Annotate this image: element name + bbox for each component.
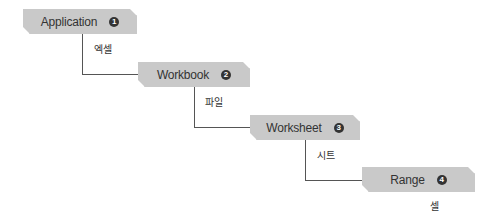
node-label: Range bbox=[390, 173, 424, 187]
connector-application-workbook-vertical bbox=[82, 34, 83, 75]
number-badge-icon: 4 bbox=[437, 175, 447, 185]
connector-workbook-worksheet-horizontal bbox=[194, 127, 250, 128]
connector-worksheet-range-horizontal bbox=[305, 180, 362, 181]
number-badge-icon: 2 bbox=[221, 70, 231, 80]
node-label: Application bbox=[41, 15, 98, 29]
number-badge-icon: 1 bbox=[109, 17, 119, 27]
node-label: Worksheet bbox=[266, 121, 321, 135]
connector-workbook-worksheet-vertical bbox=[194, 87, 195, 128]
node-label: Workbook bbox=[157, 68, 209, 82]
node-sublabel-worksheet: 시트 bbox=[317, 147, 335, 162]
node-application: Application 1 bbox=[23, 9, 137, 34]
node-sublabel-range: 셀 bbox=[430, 198, 439, 213]
node-worksheet: Worksheet 3 bbox=[250, 115, 360, 140]
node-sublabel-application: 엑셀 bbox=[94, 41, 112, 56]
node-sublabel-workbook: 파일 bbox=[205, 94, 223, 109]
connector-application-workbook-horizontal bbox=[82, 74, 138, 75]
node-range: Range 4 bbox=[362, 167, 475, 192]
connector-worksheet-range-vertical bbox=[305, 140, 306, 181]
node-workbook: Workbook 2 bbox=[138, 62, 250, 87]
number-badge-icon: 3 bbox=[334, 123, 344, 133]
